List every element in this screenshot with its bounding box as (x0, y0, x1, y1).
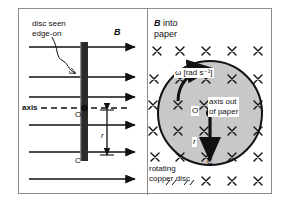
label-angular-velocity: ω [rad s⁻¹] (174, 68, 214, 78)
label-radius-r-face: r (192, 137, 197, 147)
label-disc-seen-edge-on: disc seen edge-on (32, 19, 66, 38)
disc-edge-bar (81, 42, 88, 161)
figure-frame: disc seen edge-on B axis O C r (18, 8, 272, 194)
physics-figure: disc seen edge-on B axis O C r (0, 0, 291, 209)
panel-edge-on-view: disc seen edge-on B axis O C r (19, 9, 147, 195)
label-point-c: C (75, 156, 81, 166)
label-point-o-face: O (191, 106, 199, 116)
label-axis-out-of-paper: axis out of paper (208, 97, 239, 117)
label-magnetic-field-B: B (114, 28, 121, 38)
label-axis: axis (22, 103, 38, 113)
label-point-o: O (75, 110, 81, 120)
label-rotating-copper-disc: rotating copper disc (149, 164, 190, 184)
label-B-into-paper: B into (154, 19, 178, 29)
point-o-dot (81, 105, 87, 111)
panel-face-on-view: B into paper ω [rad s⁻¹] axis out of pap… (148, 9, 273, 195)
label-point-c-face: C (207, 157, 213, 167)
leader-line-disc (52, 37, 75, 73)
label-radius-r: r (100, 131, 105, 141)
label-paper-word: paper (154, 30, 177, 40)
